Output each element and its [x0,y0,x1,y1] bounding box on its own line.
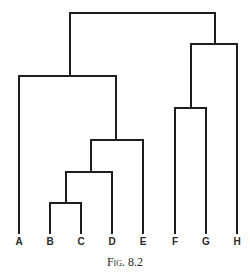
leaf-label-a: A [12,236,26,247]
merge-fg [175,108,206,233]
merge-abcde [19,76,116,233]
leaf-label-f: F [168,236,182,247]
figure-caption: Fig. 8.2 [0,255,250,270]
merge-fgh [191,44,237,233]
merge-bc [50,203,81,233]
leaf-label-g: G [199,236,213,247]
leaf-label-h: H [230,236,244,247]
merge-bcde [91,140,143,233]
leaf-label-e: E [136,236,150,247]
dendrogram [0,0,250,240]
leaf-label-b: B [43,236,57,247]
leaf-label-d: D [105,236,119,247]
leaf-label-c: C [74,236,88,247]
